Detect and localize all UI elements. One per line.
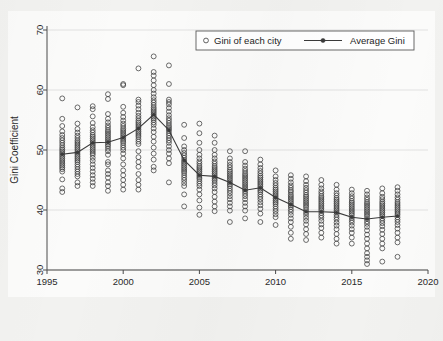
- average-gini-point: [305, 210, 308, 213]
- average-gini-point: [198, 174, 201, 177]
- scatter-point: [288, 230, 293, 235]
- scatter-point: [136, 149, 141, 154]
- scatter-point: [212, 199, 217, 204]
- average-gini-point: [76, 151, 79, 154]
- scatter-point: [258, 157, 263, 162]
- scatter-point: [288, 224, 293, 229]
- x-tick-label: 2000: [113, 276, 134, 287]
- scatter-point: [151, 73, 156, 78]
- scatter-point: [60, 96, 65, 101]
- scatter-point: [151, 130, 156, 135]
- scatter-point: [75, 121, 80, 126]
- scatter-point: [197, 205, 202, 210]
- average-gini-point: [350, 216, 353, 219]
- scatter-point: [334, 236, 339, 241]
- scatter-point: [151, 168, 156, 173]
- scatter-point: [90, 107, 95, 112]
- scatter-point: [121, 182, 126, 187]
- scatter-point: [334, 232, 339, 237]
- scatter-point: [106, 97, 111, 102]
- scatter-point: [136, 155, 141, 160]
- average-gini-point: [366, 218, 369, 221]
- average-gini-point: [289, 203, 292, 206]
- scatter-point: [121, 156, 126, 161]
- scatter-point: [243, 216, 248, 221]
- scatter-point: [319, 178, 324, 183]
- legend-label-average: Average Gini: [350, 35, 405, 46]
- scatter-point: [75, 184, 80, 189]
- scatter-point: [197, 192, 202, 197]
- scatter-point: [380, 259, 385, 264]
- scatter-point: [380, 241, 385, 246]
- scatter-point: [258, 220, 263, 225]
- x-tick-label: 2010: [265, 276, 286, 287]
- scatter-point: [121, 187, 126, 192]
- chart-canvas: 3040506070Gini Coefficient19952000200520…: [0, 0, 443, 341]
- average-gini-point: [259, 186, 262, 189]
- average-gini-point: [381, 216, 384, 219]
- scatter-point: [121, 168, 126, 173]
- y-tick-label: 60: [34, 85, 45, 96]
- scatter-point: [166, 63, 171, 68]
- scatter-point: [212, 204, 217, 209]
- scatter-point: [106, 188, 111, 193]
- scatter-point: [304, 227, 309, 232]
- scatter-point: [258, 211, 263, 216]
- scatter-point: [90, 114, 95, 119]
- scatter-point: [136, 164, 141, 169]
- scatter-point: [151, 139, 156, 144]
- scatter-point: [319, 230, 324, 235]
- average-gini-point: [213, 175, 216, 178]
- average-gini-point: [183, 159, 186, 162]
- scatter-point: [121, 173, 126, 178]
- scatter-point: [380, 236, 385, 241]
- scatter-point: [121, 104, 126, 109]
- scatter-point: [334, 241, 339, 246]
- scatter-point: [395, 240, 400, 245]
- average-gini-point: [61, 153, 64, 156]
- scatter-point: [136, 187, 141, 192]
- scatter-point: [334, 227, 339, 232]
- scatter-point: [151, 157, 156, 162]
- scatter-point: [365, 262, 370, 267]
- scatter-point: [75, 105, 80, 110]
- scatter-point: [227, 149, 232, 154]
- scatter-point: [182, 192, 187, 197]
- scatter-point: [151, 78, 156, 83]
- scatter-point: [166, 156, 171, 161]
- scatter-point: [319, 235, 324, 240]
- scatter-point: [136, 160, 141, 165]
- scatter-point: [151, 145, 156, 150]
- scatter-point: [197, 121, 202, 126]
- legend-filled-dot-icon: [321, 38, 325, 42]
- scatter-point: [212, 190, 217, 195]
- average-gini-line: [62, 115, 397, 219]
- average-gini-point: [244, 189, 247, 192]
- scatter-point: [166, 161, 171, 166]
- y-axis-title: Gini Coefficient: [9, 116, 20, 184]
- scatter-point: [106, 112, 111, 117]
- scatter-point: [182, 184, 187, 189]
- scatter-point: [365, 241, 370, 246]
- scatter-point: [197, 198, 202, 203]
- scatter-point: [212, 209, 217, 214]
- scatter-point: [349, 241, 354, 246]
- scatter-point: [151, 134, 156, 139]
- scatter-point: [151, 151, 156, 156]
- scatter-point: [258, 206, 263, 211]
- average-gini-point: [106, 141, 109, 144]
- average-gini-point: [152, 113, 155, 116]
- scatter-point: [182, 122, 187, 127]
- scatter-point: [273, 223, 278, 228]
- scatter-point: [304, 238, 309, 243]
- scatter-point: [121, 151, 126, 156]
- scatter-point: [121, 162, 126, 167]
- scatter-point: [136, 66, 141, 71]
- y-tick-label: 30: [34, 265, 45, 276]
- scatter-point: [273, 168, 278, 173]
- scatter-point: [197, 140, 202, 145]
- scatter-point: [334, 182, 339, 187]
- scatter-point: [288, 220, 293, 225]
- scatter-point: [121, 178, 126, 183]
- x-tick-label: 1995: [36, 276, 57, 287]
